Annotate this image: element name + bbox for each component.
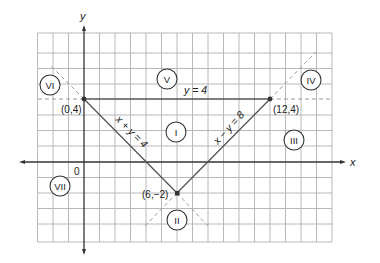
x-axis-arrow-right-icon <box>340 160 346 164</box>
point-label-12-4: (12,4) <box>273 104 299 115</box>
region-vii-label: VII <box>54 181 66 192</box>
region-vi-label: VI <box>46 80 55 91</box>
origin-label: 0 <box>74 166 80 177</box>
region-diagram: x y 0 (0,4) (12,4) (6,−2) y = 4 x + y = … <box>0 0 380 263</box>
region-v-label: V <box>164 74 171 85</box>
x-axis-arrow-left-icon <box>19 160 25 164</box>
region-iv-label: IV <box>307 75 317 86</box>
region-iii-label: III <box>290 135 298 146</box>
label-x-plus-y-eq-4: x + y = 4 <box>113 112 151 150</box>
point-label-6-neg2: (6,−2) <box>142 189 168 200</box>
point-label-0-4: (0,4) <box>61 104 82 115</box>
region-ii-label: II <box>174 215 179 226</box>
label-y-eq-4: y = 4 <box>183 84 207 96</box>
point-12-4 <box>268 97 273 102</box>
y-axis-arrow-up-icon <box>82 25 86 31</box>
point-0-4 <box>82 97 87 102</box>
point-6-neg2 <box>175 191 180 196</box>
y-axis-arrow-down-icon <box>82 249 86 255</box>
region-i-label: I <box>175 127 178 138</box>
region-markers <box>40 69 321 230</box>
x-axis-label: x <box>349 156 356 168</box>
y-axis-label: y <box>79 10 87 22</box>
